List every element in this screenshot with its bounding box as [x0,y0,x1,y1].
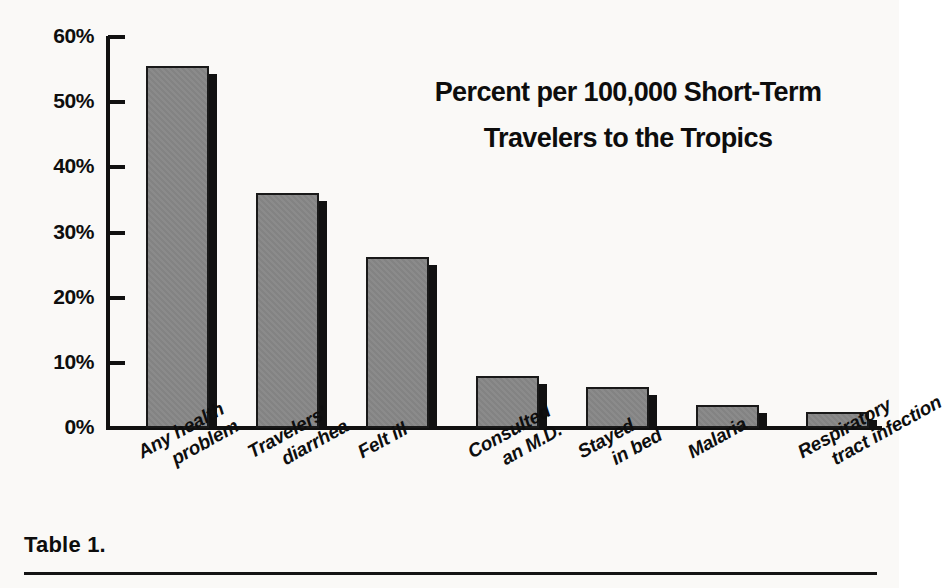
y-axis-tick [108,361,125,365]
y-axis-tick-label: 40% [22,154,94,178]
bar-front-face [366,257,429,428]
y-axis-tick-label: 20% [22,285,94,309]
caption-divider-rule [24,572,877,575]
chart-title: Percent per 100,000 Short-Term Travelers… [372,70,884,162]
bar-shadow-face [758,413,767,428]
figure-caption: Table 1. [24,532,106,558]
y-axis-tick-label: 10% [22,350,94,374]
bar-shadow-face [318,201,327,428]
y-axis-tick [108,35,125,39]
chart-title-line-1: Percent per 100,000 Short-Term [372,70,884,116]
bar-shadow-face [208,74,217,428]
y-axis-tick-label: 60% [22,24,94,48]
bar [366,257,438,428]
chart-title-line-2: Travelers to the Tropics [372,116,884,162]
bar [256,193,328,428]
y-axis-tick [108,165,125,169]
y-axis-tick [108,231,125,235]
y-axis-tick [108,100,125,104]
bar [146,66,218,428]
y-axis-tick-label: 50% [22,89,94,113]
bar-front-face [256,193,319,428]
bar-shadow-face [428,265,437,428]
y-axis-tick-label: 0% [22,415,94,439]
bar-front-face [146,66,209,428]
y-axis-tick-label: 30% [22,220,94,244]
y-axis-tick [108,296,125,300]
